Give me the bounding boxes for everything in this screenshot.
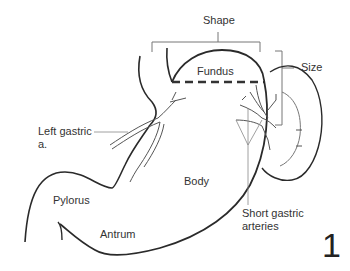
- body-label: Body: [184, 175, 209, 188]
- shape-bracket: [152, 32, 260, 52]
- esophagus-right-wall: [167, 48, 172, 82]
- left-gastric-artery: [110, 92, 186, 182]
- short-gastric-label: Short gastric arteries: [242, 207, 304, 233]
- antrum-label: Antrum: [100, 228, 135, 241]
- figure-number: 1: [322, 228, 341, 262]
- shape-label: Shape: [203, 14, 235, 27]
- short-gastric-pointers: [236, 108, 262, 205]
- esophagus-left-wall: [139, 56, 156, 125]
- spleen-inner: [280, 92, 300, 166]
- size-bracket: [275, 51, 294, 125]
- fundus-label: Fundus: [197, 65, 234, 78]
- pylorus-label: Pylorus: [53, 194, 90, 207]
- size-label: Size: [301, 61, 322, 74]
- short-gastric-arteries: [236, 85, 276, 150]
- left-gastric-label: Left gastric a.: [38, 125, 92, 151]
- greater-curvature: [60, 80, 267, 255]
